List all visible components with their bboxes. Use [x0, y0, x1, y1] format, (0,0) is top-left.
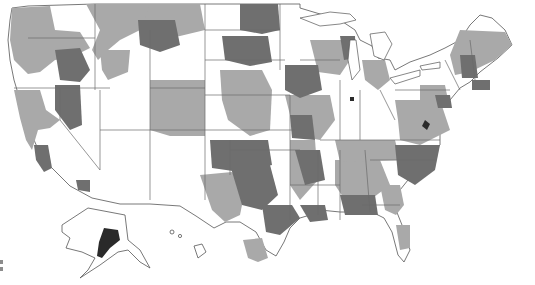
region-kentucky-tennessee	[335, 140, 400, 162]
region-indiana-point	[350, 97, 354, 101]
region-missouri	[290, 115, 315, 140]
region-north-dakota	[240, 4, 280, 34]
legend-swatch	[0, 267, 3, 271]
region-massachusetts	[472, 80, 490, 90]
region-northeast	[460, 55, 478, 78]
hawaii-islands	[170, 230, 206, 258]
region-colorado	[150, 80, 205, 136]
us-choropleth-map	[0, 0, 535, 285]
legend	[0, 260, 3, 271]
legend-swatch	[0, 260, 3, 264]
region-east-texas	[262, 205, 300, 235]
